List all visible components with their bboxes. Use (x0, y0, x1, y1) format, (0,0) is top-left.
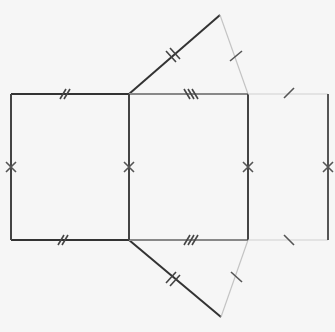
prism-net-diagram (0, 0, 335, 332)
